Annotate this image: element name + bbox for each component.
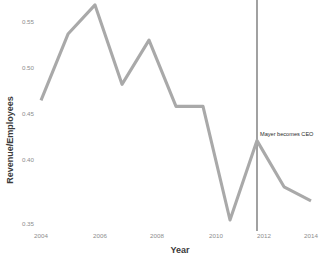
x-tick-label-1: 2006	[93, 232, 107, 239]
x-tick-label-4: 2012	[257, 232, 271, 239]
chart-container: 0.55 0.50 0.45 0.40 0.35 2004 2006 2008 …	[0, 0, 332, 257]
x-tick-label-3: 2010	[209, 232, 223, 239]
x-tick-label-0: 2004	[34, 232, 48, 239]
x-tick-label-5: 2014	[304, 232, 318, 239]
y-tick-label-3: 0.40	[22, 156, 35, 163]
y-tick-label-0: 0.55	[22, 18, 35, 25]
y-tick-label-1: 0.50	[22, 64, 35, 71]
annotation-label: Mayer becomes CEO	[260, 131, 314, 137]
y-tick-label-2: 0.45	[22, 110, 35, 117]
x-tick-label-2: 2008	[150, 232, 164, 239]
x-axis-title: Year	[170, 245, 190, 255]
data-series-line	[41, 5, 311, 220]
line-chart: 0.55 0.50 0.45 0.40 0.35 2004 2006 2008 …	[0, 0, 332, 257]
y-axis-title: Revenue/Employees	[5, 96, 15, 184]
y-tick-label-4: 0.35	[22, 220, 35, 227]
